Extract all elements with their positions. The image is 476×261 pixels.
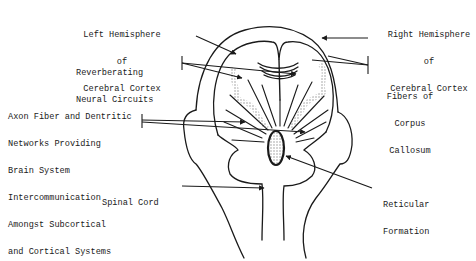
head-right-bulge: [303, 112, 352, 258]
label-reticular-formation: Reticular Formation: [383, 183, 429, 255]
brain-diagram: Left Hemisphere of Cerebral Cortex Right…: [0, 0, 476, 261]
label-spinal-cord: Spinal Cord: [102, 181, 159, 226]
label-corpus-callosum: Fibers of Corpus Callosum: [380, 75, 440, 174]
head-left-bulge: [184, 110, 244, 258]
reticular-formation: [268, 131, 284, 165]
label-axon-fiber-networks: Axon Fiber and Dentritic Networks Provid…: [8, 95, 132, 261]
brain-outline: [214, 41, 334, 135]
